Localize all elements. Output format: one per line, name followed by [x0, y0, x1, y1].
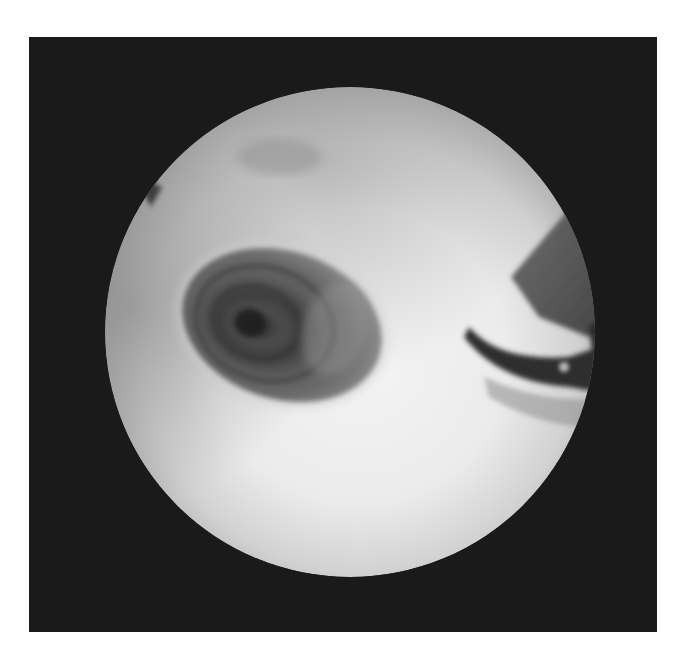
- image-canvas: [0, 0, 678, 649]
- endoscopic-view: [29, 37, 657, 632]
- view-field: [105, 87, 639, 577]
- endoscopic-frame: [29, 37, 657, 632]
